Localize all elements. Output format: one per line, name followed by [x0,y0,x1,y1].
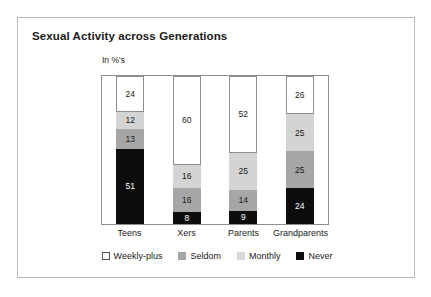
legend-label: Monthly [249,251,281,261]
legend-item-monthly[interactable]: Monthly [237,251,281,261]
bar-value-label: 26 [295,91,304,100]
bar-value-label: 52 [239,110,248,119]
legend-label: Never [308,251,332,261]
x-tick-label: Xers [158,228,215,238]
legend-item-never[interactable]: Never [296,251,332,261]
bar-segment[interactable]: 26 [286,76,314,114]
bar-segment[interactable]: 25 [229,153,257,190]
legend-label: Seldom [190,251,221,261]
legend-swatch-icon [102,252,110,260]
bar-value-label: 16 [182,172,191,181]
bar-value-label: 24 [295,202,304,211]
bar-value-label: 25 [295,166,304,175]
bar-value-label: 51 [126,182,135,191]
legend-swatch-icon [237,252,245,260]
x-tick-label: Grandparents [272,228,329,238]
bar-value-label: 60 [182,116,191,125]
legend-item-seldom[interactable]: Seldom [178,251,221,261]
bar-segment[interactable]: 8 [173,212,201,224]
bar-segment[interactable]: 24 [116,76,144,112]
x-tick-label: Parents [215,228,272,238]
bar-value-label: 16 [182,196,191,205]
bar-column-grandparents[interactable]: 26252524 [286,76,314,224]
legend-item-weekly[interactable]: Weekly-plus [102,251,163,261]
bars-layer: 241213516016168522514926252524 [102,76,328,224]
bar-segment[interactable]: 51 [116,149,144,224]
bar-value-label: 24 [126,90,135,99]
bar-value-label: 12 [126,116,135,125]
chart-card: Sexual Activity across Generations In %'… [17,17,415,278]
bar-segment[interactable]: 14 [229,190,257,211]
bar-segment[interactable]: 16 [173,188,201,212]
chart-legend: Weekly-plusSeldomMonthlyNever [32,246,402,266]
x-tick-label: Teens [101,228,158,238]
page-title: Sexual Activity across Generations [32,30,227,42]
bar-column-parents[interactable]: 5225149 [229,76,257,224]
bar-segment[interactable]: 60 [173,76,201,165]
legend-swatch-icon [296,252,304,260]
bar-segment[interactable]: 9 [229,211,257,224]
bar-column-xers[interactable]: 6016168 [173,76,201,224]
bar-column-teens[interactable]: 24121351 [116,76,144,224]
x-axis-tick-labels: TeensXersParentsGrandparents [101,228,329,244]
legend-label: Weekly-plus [114,251,163,261]
bar-value-label: 14 [239,196,248,205]
bar-segment[interactable]: 25 [286,114,314,151]
plot-area: 241213516016168522514926252524 [101,75,329,225]
axis-unit-note: In %'s [102,55,125,65]
bar-value-label: 9 [241,213,246,222]
bar-segment[interactable]: 24 [286,188,314,224]
bar-segment[interactable]: 12 [116,112,144,130]
bar-segment[interactable]: 13 [116,129,144,148]
bar-value-label: 8 [184,214,189,223]
legend-swatch-icon [178,252,186,260]
bar-segment[interactable]: 52 [229,76,257,153]
bar-value-label: 25 [295,129,304,138]
bar-value-label: 25 [239,167,248,176]
bar-segment[interactable]: 25 [286,151,314,188]
bar-value-label: 13 [126,135,135,144]
bar-segment[interactable]: 16 [173,165,201,189]
